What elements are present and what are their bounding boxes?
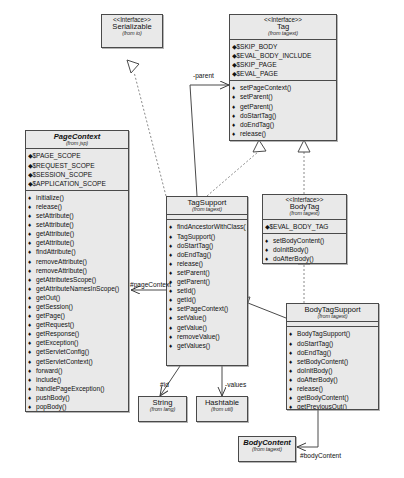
static-attribute-icon: ◆$ xyxy=(28,161,36,170)
class-header-tag: <<Interface>> Tag (from tagext) xyxy=(230,15,336,39)
attribute-label: APPLICATION_SCOPE xyxy=(36,180,106,187)
attribute-label: SKIP_BODY xyxy=(240,43,277,50)
method-label: getServletContext() xyxy=(36,358,93,365)
public-method-icon: ♦ xyxy=(28,338,36,347)
public-method-icon: ♦ xyxy=(28,320,36,329)
public-method-icon: ♦ xyxy=(28,229,36,238)
public-method-icon: ♦ xyxy=(289,366,297,375)
method-label: getSession() xyxy=(36,303,73,310)
public-method-icon: ♦ xyxy=(289,357,297,366)
public-method-icon: ♦ xyxy=(28,393,36,402)
method-label: removeAttribute() xyxy=(36,258,87,265)
public-method-icon: ♦ xyxy=(289,329,297,338)
attribute-label: EVAL_PAGE xyxy=(240,70,278,77)
method-label: setPageContext() xyxy=(240,84,291,91)
method-row: ♦doAfterBody() xyxy=(289,375,377,384)
method-label: getOut() xyxy=(36,294,60,301)
public-method-icon: ♦ xyxy=(289,393,297,402)
method-row: ♦removeAttribute() xyxy=(28,257,127,266)
method-row: ♦setParent() xyxy=(232,92,335,101)
class-box-hashtable[interactable]: Hashtable (from util) xyxy=(196,396,248,422)
method-row: ♦getOut() xyxy=(28,293,127,302)
method-label: setValue() xyxy=(177,314,207,321)
method-row: ♦getServletConfig() xyxy=(28,347,127,356)
method-label: initialize() xyxy=(36,194,64,201)
method-label: getAttribute() xyxy=(36,239,74,246)
methods-bodytag: ♦setBodyContent() ♦doInitBody() ♦doAfter… xyxy=(263,234,346,264)
public-method-icon: ♦ xyxy=(289,402,297,410)
method-label: getException() xyxy=(36,339,79,346)
public-method-icon: ♦ xyxy=(28,257,36,266)
attribute-label: EVAL_BODY_TAG xyxy=(273,223,328,230)
class-box-tag[interactable]: <<Interface>> Tag (from tagext) ◆$SKIP_B… xyxy=(229,14,337,141)
public-method-icon: ♦ xyxy=(28,366,36,375)
method-label: pushBody() xyxy=(36,394,70,401)
public-method-icon: ♦ xyxy=(28,275,36,284)
attribute-row: ◆$SKIP_BODY xyxy=(232,42,335,51)
method-label: getId() xyxy=(177,296,196,303)
class-box-bodycontent[interactable]: BodyContent (from tagext) xyxy=(238,436,296,462)
method-row: ♦forward() xyxy=(28,366,127,375)
method-label: getResponse() xyxy=(36,330,79,337)
method-label: getPreviousOut() xyxy=(297,403,347,410)
method-label: TagSupport() xyxy=(177,233,215,240)
method-label: BodyTagSupport() xyxy=(297,330,350,337)
public-method-icon: ♦ xyxy=(28,284,36,293)
public-method-icon: ♦ xyxy=(169,295,177,304)
method-label: removeAttribute() xyxy=(36,267,87,274)
class-box-bodytagsupport[interactable]: BodyTagSupport (from tagext) ♦BodyTagSup… xyxy=(286,303,379,410)
method-row: ♦getValues() xyxy=(169,341,246,350)
attribute-label: SESSION_SCOPE xyxy=(36,171,92,178)
public-method-icon: ♦ xyxy=(28,402,36,411)
method-label: handlePageException() xyxy=(36,385,105,392)
method-row: ♦getValue() xyxy=(169,323,246,332)
method-row: ♦popBody() xyxy=(28,402,127,411)
method-row: ♦getBodyContent() xyxy=(289,393,377,402)
static-attribute-icon: ◆$ xyxy=(28,170,36,179)
edge-label-parent: -parent xyxy=(193,72,214,79)
public-method-icon: ♦ xyxy=(28,329,36,338)
public-method-icon: ♦ xyxy=(169,250,177,259)
method-label: doAfterBody() xyxy=(297,376,338,383)
public-method-icon: ♦ xyxy=(28,266,36,275)
class-header-bodytag: <<Interface>> BodyTag (from tagext) xyxy=(263,195,346,219)
methods-tagsupport: ♦findAncestorWithClass() ♦TagSupport() ♦… xyxy=(167,220,247,351)
method-label: findAttribute() xyxy=(36,248,76,255)
realization-tagsupport-serializable xyxy=(127,60,166,196)
method-row: ♦doEndTag() xyxy=(169,250,246,259)
method-row: ♦getRequest() xyxy=(28,320,127,329)
method-label: getAttributesScope() xyxy=(36,276,96,283)
class-box-pagecontext[interactable]: PageContext (from jsp) ◆$PAGE_SCOPE ◆$RE… xyxy=(25,130,129,412)
method-row: ♦setParent() xyxy=(169,268,246,277)
method-row: ♦TagSupport() xyxy=(169,232,246,241)
method-row: ♦getException() xyxy=(28,338,127,347)
method-row: ♦findAttribute() xyxy=(28,247,127,256)
method-label: removeValue() xyxy=(177,333,220,340)
method-label: include() xyxy=(36,376,61,383)
method-label: forward() xyxy=(36,367,62,374)
public-method-icon: ♦ xyxy=(28,211,36,220)
method-row: ♦handlePageException() xyxy=(28,384,127,393)
methods-pagecontext: ♦initialize() ♦release() ♦setAttribute()… xyxy=(26,191,128,412)
public-method-icon: ♦ xyxy=(28,238,36,247)
method-row: ♦doAfterBody() xyxy=(265,254,345,263)
method-row: ♦include() xyxy=(28,375,127,384)
method-row: ♦getSession() xyxy=(28,302,127,311)
class-header-tagsupport: TagSupport (from tagext) xyxy=(167,197,247,214)
class-box-serializable[interactable]: <<Interface>> Serializable (from io) xyxy=(101,14,163,48)
class-box-tagsupport[interactable]: TagSupport (from tagext) ♦findAncestorWi… xyxy=(166,196,248,366)
class-package-bodytag: (from tagext) xyxy=(265,211,344,217)
public-method-icon: ♦ xyxy=(289,348,297,357)
method-label: doEndTag() xyxy=(240,121,274,128)
class-box-string[interactable]: String (from lang) xyxy=(138,396,187,422)
class-package-tagsupport: (from tagext) xyxy=(169,207,245,213)
method-label: getServletConfig() xyxy=(36,348,89,355)
method-label: doStartTag() xyxy=(297,340,333,347)
method-row: ♦getParent() xyxy=(169,277,246,286)
attribute-row: ◆$REQUEST_SCOPE xyxy=(28,161,127,170)
method-label: release() xyxy=(297,385,323,392)
public-method-icon: ♦ xyxy=(232,120,240,129)
public-method-icon: ♦ xyxy=(28,202,36,211)
method-row: ♦doStartTag() xyxy=(232,111,335,120)
class-box-bodytag[interactable]: <<Interface>> BodyTag (from tagext) ◆$EV… xyxy=(262,194,347,264)
